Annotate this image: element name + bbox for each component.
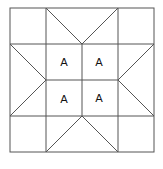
center-label-tr: A [95, 56, 103, 69]
center-label-tl: A [60, 56, 68, 69]
center-label-bl: A [60, 93, 68, 106]
quilt-block-diagram: A A A A [0, 0, 163, 169]
grid-lines [10, 8, 154, 152]
center-label-br: A [95, 92, 103, 105]
